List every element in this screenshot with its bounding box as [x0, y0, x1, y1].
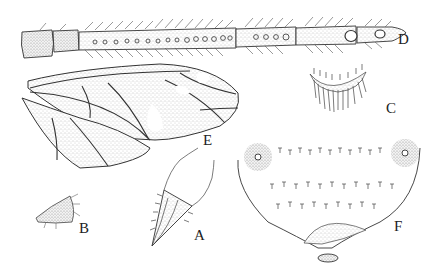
plate-drawings	[0, 0, 446, 271]
panel-label-f: F	[394, 219, 402, 234]
lobe-drawing-c	[310, 64, 366, 112]
panel-label-e: E	[203, 133, 212, 148]
sensory-pore-left	[244, 143, 272, 171]
sensory-pore-right	[391, 139, 419, 167]
illustration-plate: D E C B A F	[0, 0, 446, 271]
wings-drawing-e	[22, 64, 239, 168]
panel-label-d: D	[398, 32, 409, 47]
panel-label-a: A	[194, 228, 205, 243]
plate-drawing-f	[238, 139, 420, 262]
antenna-drawing-d	[21, 17, 406, 58]
panel-label-c: C	[386, 101, 396, 116]
segment-drawing-b	[36, 194, 80, 229]
panel-label-b: B	[79, 221, 89, 236]
